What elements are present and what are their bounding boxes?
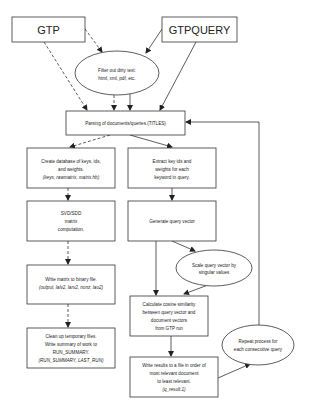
svg-text:Clean up temporary files.: Clean up temporary files. (45, 334, 96, 339)
svg-text:(q_result.1): (q_result.1) (162, 387, 186, 392)
svg-text:matrix: matrix (65, 219, 78, 224)
svg-text:Calculate cosine similarity: Calculate cosine similarity (143, 302, 197, 307)
node-parsing: Parsing of documents/queries.(TITLES) (66, 111, 185, 135)
svg-text:Scale query vector by: Scale query vector by (192, 263, 237, 268)
svg-text:Parsing of documents/queries.(: Parsing of documents/queries.(TITLES) (85, 121, 166, 126)
svg-text:RUN_SUMMARY.: RUN_SUMMARY. (53, 350, 90, 355)
svg-text:GTPQUERY: GTPQUERY (169, 24, 231, 36)
edge-generate-scale (172, 241, 195, 251)
node-create-db: Create database of keys, ids, and weight… (27, 148, 115, 188)
node-extract: Extract key ids and weights for each key… (128, 148, 216, 188)
svg-text:SVD/SDD: SVD/SDD (61, 211, 82, 216)
svg-text:each consecutive query: each consecutive query (234, 347, 283, 352)
node-cosine: Calculate cosine similarity between quer… (130, 296, 208, 336)
node-gtp: GTP (12, 17, 85, 42)
node-write-matrix: Write matrix to binary file. (output, la… (27, 265, 115, 304)
node-generate: Generate query vector (128, 201, 216, 241)
edge-gtp-filter (85, 29, 102, 52)
svg-text:(keys, rawmatrix, matrix.hb): (keys, rawmatrix, matrix.hb) (43, 175, 100, 180)
svg-text:Create database of keys, ids,: Create database of keys, ids, (41, 159, 101, 164)
svg-text:Write summary of work to: Write summary of work to (45, 342, 97, 347)
svg-text:most relevant document: most relevant document (149, 371, 199, 376)
node-gtpquery: GTPQUERY (162, 17, 237, 42)
svg-text:html, xml, pdf, etc.: html, xml, pdf, etc. (98, 76, 135, 81)
edge-write-results-repeat (218, 364, 250, 378)
svg-text:(RUN_SUMMARY, LAST_RUN): (RUN_SUMMARY, LAST_RUN) (38, 358, 103, 363)
svg-text:Filter out dirty text:: Filter out dirty text: (98, 68, 136, 73)
edge-scale-cosine (184, 285, 208, 294)
svg-text:Write results to a file in ord: Write results to a file in order of (142, 363, 206, 368)
flowchart: GTP GTPQUERY Filter out dirty text: html… (0, 0, 312, 415)
svg-text:document vectors: document vectors (151, 318, 188, 323)
edge-parsing-create-db (70, 135, 110, 147)
svg-text:between query vector and: between query vector and (143, 310, 196, 315)
node-scale: Scale query vector by singular values (176, 250, 252, 286)
svg-text:singular values: singular values (199, 270, 230, 275)
svg-text:to least relevant.: to least relevant. (157, 379, 191, 384)
svg-text:Extract key ids and: Extract key ids and (153, 159, 192, 164)
node-write-results: Write results to a file in order of most… (130, 357, 218, 397)
svg-text:and weights.: and weights. (58, 167, 84, 172)
edge-parsing-extract (130, 135, 172, 147)
svg-text:(output, lalv2, larv2, nonz, l: (output, lalv2, larv2, nonz, lao2) (39, 285, 104, 290)
svg-text:GTP: GTP (37, 24, 60, 36)
svg-text:from GTP run: from GTP run (155, 326, 183, 331)
svg-text:computation.: computation. (58, 227, 84, 232)
edge-gtpquery-parsing (160, 42, 196, 110)
svg-text:weights for each: weights for each (155, 167, 189, 172)
node-cleanup: Clean up temporary files. Write summary … (27, 328, 115, 368)
svg-text:Write matrix to binary file.: Write matrix to binary file. (45, 277, 97, 282)
edge-gtpquery-filter (146, 29, 162, 53)
svg-text:keyword in query.: keyword in query. (154, 175, 190, 180)
node-repeat: Repeat process for each consecutive quer… (222, 325, 294, 365)
svg-text:Generate query vector: Generate query vector (149, 219, 195, 224)
node-filter: Filter out dirty text: html, xml, pdf, e… (75, 51, 159, 95)
svg-text:Repeat process for: Repeat process for (239, 339, 278, 344)
node-svd: SVD/SDD matrix computation. (27, 201, 115, 241)
